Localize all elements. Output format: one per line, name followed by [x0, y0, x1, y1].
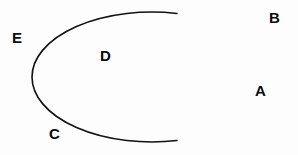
ellipse-figure: [0, 0, 298, 155]
point-label-b: B: [269, 10, 280, 25]
point-label-d: D: [100, 48, 111, 63]
point-label-e: E: [12, 30, 22, 45]
point-label-a: A: [255, 83, 266, 98]
figure-canvas: E B D A C: [0, 0, 298, 155]
point-label-c: C: [49, 126, 60, 141]
open-ellipse-arc: [32, 12, 177, 142]
